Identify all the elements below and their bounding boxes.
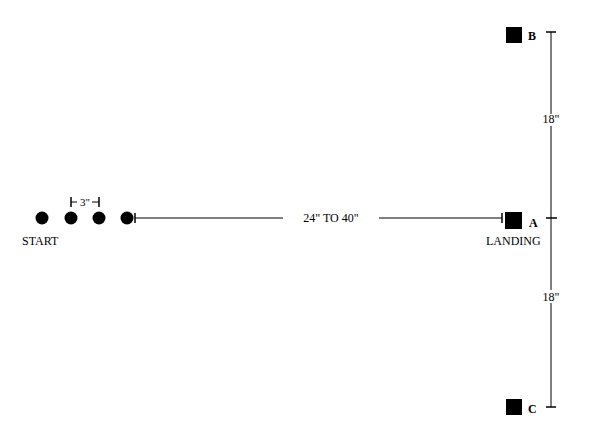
start-dot-4 xyxy=(121,212,134,225)
square-b xyxy=(506,27,522,43)
marker-c-label: C xyxy=(528,402,537,416)
jump-diagram: 3" START 24" TO 40" A LANDING B C 18 xyxy=(0,0,591,430)
start-dot-3 xyxy=(93,212,106,225)
upper-distance-label: 18" xyxy=(543,112,560,126)
lower-distance-label: 18" xyxy=(543,290,560,304)
distance-label: 24" TO 40" xyxy=(303,211,358,225)
vertical-measure-line xyxy=(546,32,557,407)
landing-square-a xyxy=(505,212,522,229)
marker-a-label: A xyxy=(529,216,538,230)
spacing-label: 3" xyxy=(80,196,90,208)
start-dot-2 xyxy=(65,212,78,225)
start-dot-1 xyxy=(36,212,49,225)
square-c xyxy=(506,399,522,415)
landing-label: LANDING xyxy=(486,234,541,248)
marker-b-label: B xyxy=(528,29,536,43)
diagram-canvas: 3" START 24" TO 40" A LANDING B C 18 xyxy=(0,0,591,430)
start-label: START xyxy=(22,234,59,248)
